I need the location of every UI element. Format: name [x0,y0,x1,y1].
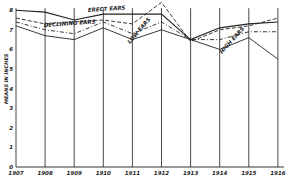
series-annotation: ERECT EARS [88,4,126,13]
x-tick-label: 1916 [270,170,285,176]
series-annotation: LOW EARS [126,16,151,45]
y-tick-label: 7 [9,27,13,33]
y-tick-label: 2 [9,125,13,131]
y-tick-label: 0 [9,164,13,170]
y-tick-label: 4 [9,86,13,92]
x-tick-label: 1913 [183,170,198,176]
x-tick-label: 1914 [212,170,227,176]
x-tick-label: 1911 [125,170,140,176]
y-tick-label: 5 [9,66,13,72]
line-chart: 1907190819091910191119121913191419151916… [0,0,292,178]
series-annotation: DECLINING EARS [44,18,96,28]
y-tick-label: 6 [9,46,13,52]
chart-canvas: 1907190819091910191119121913191419151916… [0,0,292,178]
x-tick-label: 1912 [154,170,169,176]
x-tick-label: 1915 [241,170,256,176]
y-tick-label: 1 [9,144,13,150]
x-tick-label: 1907 [8,170,23,176]
x-tick-label: 1910 [96,170,111,176]
y-tick-label: 3 [9,105,13,111]
x-tick-label: 1909 [67,170,82,176]
x-tick-label: 1908 [37,170,52,176]
y-tick-label: 8 [9,7,13,13]
y-axis-label: MEANS IN INCHES [3,53,9,104]
